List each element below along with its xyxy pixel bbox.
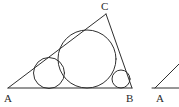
triangle-abc (8, 14, 132, 88)
geometry-figure-canvas: A B C A (0, 0, 179, 107)
geometry-svg: A B C A (0, 0, 179, 107)
circle-right-small (112, 70, 130, 88)
circle-group (34, 30, 131, 89)
label-c: C (101, 0, 108, 12)
label-a: A (4, 92, 12, 104)
incircle-large (58, 30, 116, 88)
partial-triangle-right (152, 64, 179, 88)
circle-left-small (34, 58, 65, 89)
ascending-segment (155, 64, 179, 88)
label-b: B (126, 92, 133, 104)
label-a-secondary: A (156, 92, 164, 104)
side-ca (8, 14, 106, 88)
